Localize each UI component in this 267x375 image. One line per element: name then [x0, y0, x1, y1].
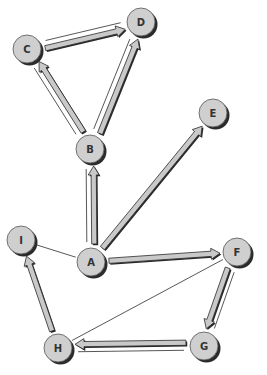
edge-arrow-c-to-d [45, 23, 127, 52]
edge-thin-line [34, 68, 76, 134]
edge-arrow-f-to-g [204, 267, 234, 330]
node-g[interactable]: G [190, 332, 221, 363]
node-label: G [200, 341, 208, 352]
edge-thin-line [78, 350, 184, 351]
edge-arrow-a-to-f [109, 248, 222, 264]
node-i[interactable]: I [7, 226, 38, 257]
edge-arrow-a-to-b [86, 166, 100, 245]
node-d[interactable]: D [127, 8, 158, 39]
node-label: C [23, 44, 30, 55]
node-f[interactable]: F [223, 238, 254, 269]
node-label: E [210, 108, 217, 119]
node-label: A [87, 257, 95, 268]
node-label: I [19, 235, 23, 246]
node-e[interactable]: E [199, 99, 230, 130]
edge-arrow-a-to-e [100, 126, 203, 251]
edge-arrow-b-to-d [94, 39, 141, 136]
edge-arrow-g-to-h [75, 339, 187, 352]
graph-canvas: ABCDEFGHI [0, 0, 267, 375]
edge-arrow-h-to-i [24, 256, 56, 333]
edge-thin-line [86, 169, 87, 242]
edge-arrow-b-to-c [34, 62, 87, 135]
node-b[interactable]: B [76, 135, 107, 166]
node-a[interactable]: A [77, 248, 108, 279]
node-label: F [234, 247, 241, 258]
node-label: H [54, 343, 62, 354]
node-label: D [137, 17, 145, 28]
edges-layer [24, 23, 234, 352]
node-label: B [86, 144, 94, 155]
node-c[interactable]: C [13, 35, 44, 66]
edge-line-a-i [36, 245, 75, 257]
node-h[interactable]: H [44, 334, 75, 365]
